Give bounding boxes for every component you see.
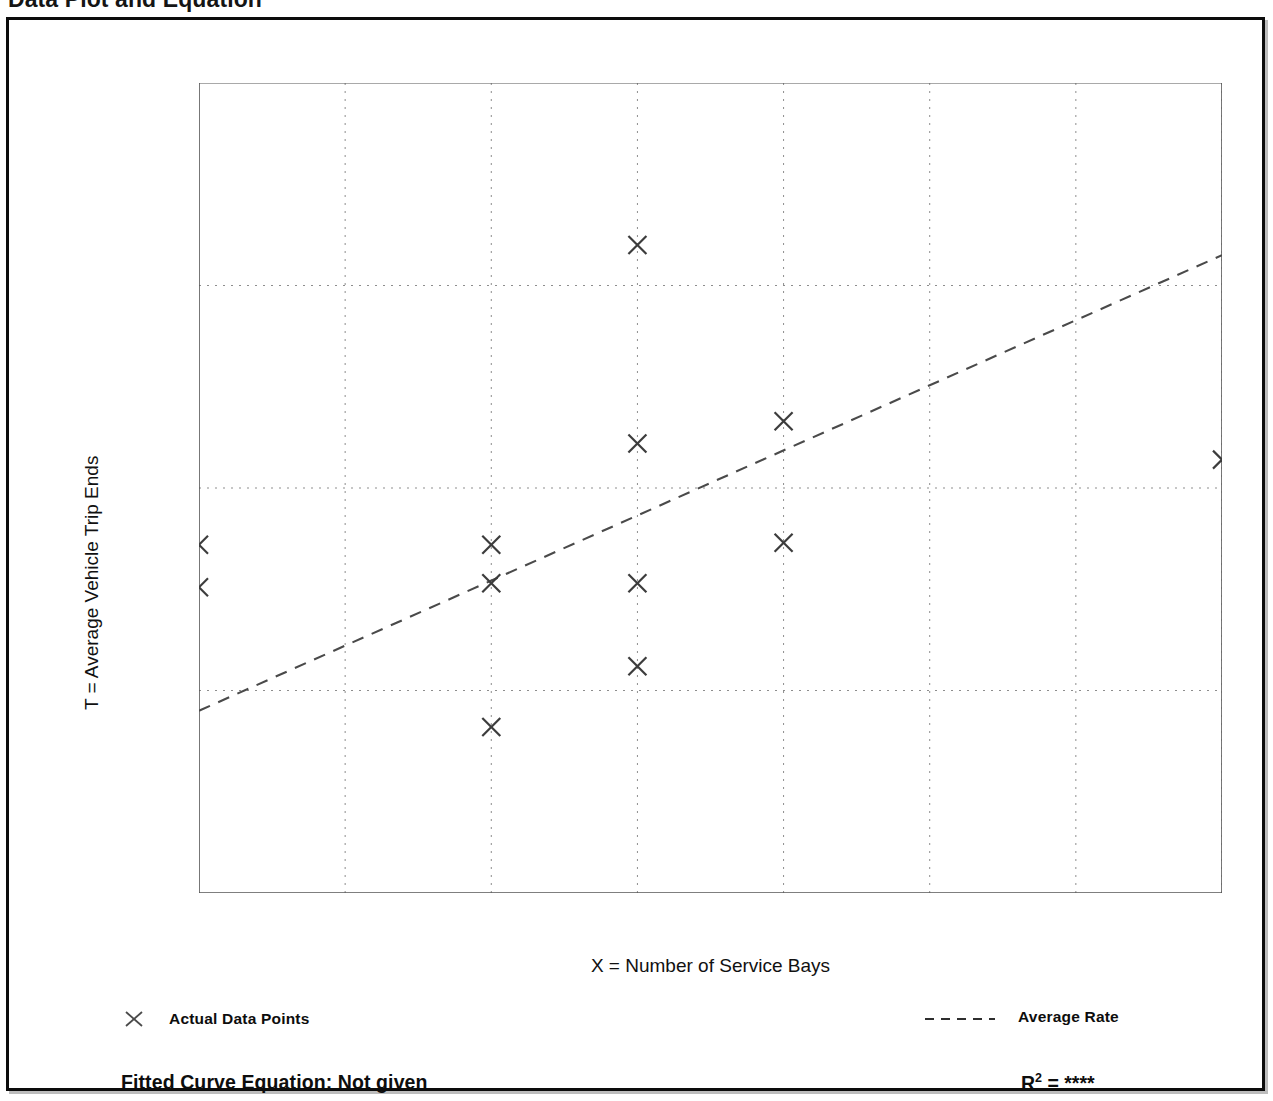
r-squared-equals: = — [1042, 1072, 1064, 1094]
data-point-marker — [482, 574, 500, 592]
r-squared-annotation: R2 = **** — [1021, 1071, 1095, 1095]
data-point-marker — [199, 536, 208, 554]
r-squared-exponent: 2 — [1035, 1071, 1042, 1085]
data-point-marker — [1213, 451, 1222, 469]
r-squared-symbol: R — [1021, 1072, 1035, 1094]
fitted-curve-equation: Fitted Curve Equation: Not given — [121, 1071, 428, 1094]
data-point-marker — [482, 718, 500, 736]
y-axis-title: T = Average Vehicle Trip Ends — [81, 456, 103, 710]
figure-frame: 1020304050678910111213 T = Average Vehic… — [6, 17, 1265, 1091]
x-axis-title: X = Number of Service Bays — [199, 955, 1222, 977]
legend-label-actual-data-points: Actual Data Points — [169, 1010, 310, 1028]
data-point-marker — [628, 434, 646, 452]
legend-item-average-rate: Average Rate — [924, 1008, 1119, 1026]
data-point-marker — [482, 536, 500, 554]
legend-label-average-rate: Average Rate — [1018, 1008, 1119, 1026]
scatter-plot-svg: 1020304050678910111213 — [199, 83, 1222, 893]
data-point-marker — [628, 574, 646, 592]
r-squared-value: **** — [1064, 1072, 1094, 1094]
page-title: Data Plot and Equation — [8, 0, 262, 13]
data-point-marker — [199, 578, 208, 596]
plot-area: 1020304050678910111213 — [199, 83, 1222, 893]
x-marker-icon — [121, 1008, 147, 1030]
legend-item-actual-data-points: Actual Data Points — [121, 1008, 310, 1030]
dashed-line-icon — [924, 1011, 996, 1023]
average-rate-trend-line — [199, 255, 1222, 711]
